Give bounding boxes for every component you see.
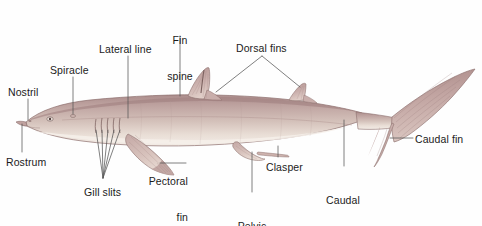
label-pectoral-fin: Pectoral fin [128, 151, 188, 226]
label-caudal-fin: Caudal fin [415, 133, 463, 145]
pelvic-fin [233, 142, 289, 161]
label-spiracle: Spiracle [50, 64, 89, 76]
label-gill-slits: Gill slits [84, 186, 121, 198]
label-pelvic-fin-line1: Pelvic [228, 220, 276, 226]
label-caudal-peduncle-line1: Caudal [310, 194, 376, 206]
label-fin-spine: Fin spine [163, 10, 197, 106]
shark-illustration [0, 0, 482, 226]
second-dorsal-fin [289, 83, 317, 103]
label-pectoral-fin-line1: Pectoral [128, 175, 188, 187]
caudal-region [356, 69, 475, 167]
label-dorsal-fins: Dorsal fins [236, 42, 287, 54]
shark-anatomy-figure: Nostril Rostrum Spiracle Lateral line Gi… [0, 0, 482, 226]
label-pelvic-fin: Pelvic fin [228, 196, 276, 226]
label-caudal-peduncle: Caudal peduncle [310, 170, 376, 226]
label-pectoral-fin-line2: fin [128, 211, 188, 223]
label-rostrum: Rostrum [6, 156, 46, 168]
label-fin-spine-line1: Fin [163, 34, 197, 46]
leader-dorsal-fins [216, 56, 300, 92]
label-nostril: Nostril [8, 86, 38, 98]
label-fin-spine-line2: spine [163, 70, 197, 82]
label-clasper: Clasper [266, 161, 303, 173]
label-lateral-line: Lateral line [99, 43, 152, 55]
